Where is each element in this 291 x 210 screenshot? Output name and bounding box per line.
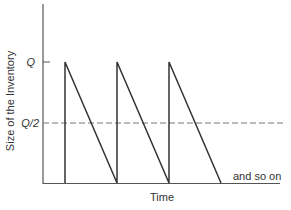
q-label: Q: [26, 56, 35, 68]
inventory-sawtooth-chart: Q Q/2 Size of the Inventory Time and so …: [0, 0, 291, 210]
and-so-on-annotation: and so on: [233, 170, 281, 182]
q-half-label: Q/2: [21, 117, 39, 129]
y-axis-label: Size of the Inventory: [4, 50, 16, 151]
x-axis-label: Time: [150, 191, 174, 203]
